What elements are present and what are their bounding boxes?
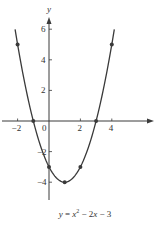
data-point xyxy=(16,43,20,47)
y-tick-label: 4 xyxy=(41,55,46,65)
data-point xyxy=(47,165,51,169)
data-point xyxy=(63,180,67,184)
caption-const: − 3 xyxy=(97,209,111,219)
parabola-curve xyxy=(15,29,114,182)
axes xyxy=(2,17,154,200)
y-tick-label: 6 xyxy=(41,24,46,34)
marked-points xyxy=(16,43,114,185)
y-axis-arrow-icon xyxy=(47,17,52,24)
parabola-graph: −2024−4−2246 y xyxy=(0,0,156,228)
x-tick-label: 0 xyxy=(42,123,47,133)
x-axis-arrow-icon xyxy=(147,119,154,124)
data-point xyxy=(31,119,35,123)
x-tick-label: 4 xyxy=(109,123,114,133)
x-tick-label: 2 xyxy=(77,123,82,133)
data-point xyxy=(78,165,82,169)
equation-caption: y = x2 − 2x − 3 xyxy=(0,208,156,219)
ticks: −2024−4−2246 xyxy=(12,24,114,187)
caption-eq: = xyxy=(63,209,73,219)
data-point xyxy=(110,43,114,47)
y-axis-label: y xyxy=(46,4,51,14)
caption-term: − 2 xyxy=(79,209,93,219)
x-tick-label: −2 xyxy=(12,123,22,133)
y-tick-label: −4 xyxy=(37,177,47,187)
data-point xyxy=(94,119,98,123)
y-tick-label: 2 xyxy=(41,85,46,95)
